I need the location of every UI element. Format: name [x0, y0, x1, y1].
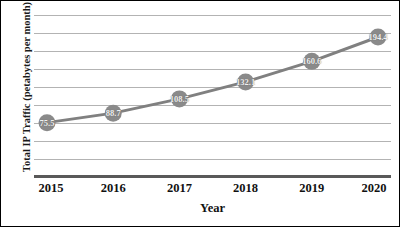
data-point-marker [171, 90, 188, 107]
series-polyline [47, 37, 378, 123]
data-point-marker [303, 53, 320, 70]
data-series-line [34, 15, 391, 177]
x-tick-label: 2017 [167, 181, 192, 196]
x-axis-tick-labels: 201520162017201820192020 [34, 181, 391, 199]
x-tick-label: 2020 [362, 181, 387, 196]
x-axis-title: Year [34, 201, 391, 216]
data-point-marker [39, 114, 56, 131]
x-tick-label: 2019 [299, 181, 324, 196]
chart-figure: Total IP Traffic (petabytes per month) 7… [0, 0, 400, 227]
data-point-marker [370, 29, 387, 46]
x-tick-label: 2018 [233, 181, 258, 196]
x-axis-baseline [34, 175, 391, 178]
data-point-marker [105, 105, 122, 122]
x-tick-label: 2016 [101, 181, 126, 196]
plot-area: 75.588.7108.5132.1160.6194.4 [34, 15, 391, 177]
x-tick-label: 2015 [39, 181, 64, 196]
data-point-marker [237, 73, 254, 90]
